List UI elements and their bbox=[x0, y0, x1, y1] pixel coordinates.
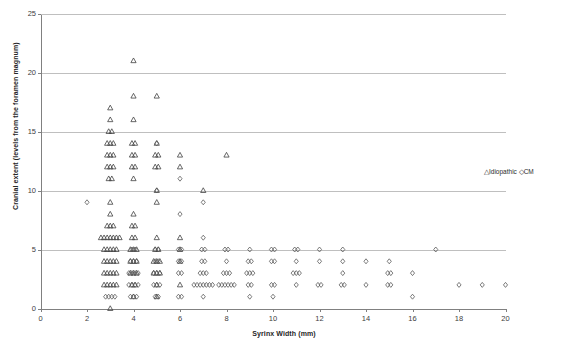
data-point-triangle bbox=[224, 152, 229, 157]
data-point-diamond bbox=[294, 282, 298, 287]
data-point-triangle bbox=[131, 176, 136, 181]
x-tick-label: 6 bbox=[165, 314, 195, 323]
data-point-diamond bbox=[248, 294, 252, 299]
legend-entry-cm: ◇CM bbox=[519, 168, 534, 176]
y-tick-label: 0 bbox=[14, 304, 36, 313]
x-tick-label: 16 bbox=[398, 314, 428, 323]
data-point-diamond bbox=[480, 282, 484, 287]
data-point-triangle bbox=[131, 93, 136, 98]
axis-lines bbox=[41, 14, 506, 310]
data-point-diamond bbox=[364, 282, 368, 287]
series-idiopathic bbox=[98, 58, 229, 311]
data-point-diamond bbox=[364, 259, 368, 264]
series-cm bbox=[85, 141, 508, 299]
data-point-triangle bbox=[154, 93, 159, 98]
data-point-diamond bbox=[248, 247, 252, 252]
data-point-diamond bbox=[294, 259, 298, 264]
data-point-diamond bbox=[271, 294, 275, 299]
data-point-triangle bbox=[131, 58, 136, 63]
x-tick-label: 4 bbox=[119, 314, 149, 323]
data-point-diamond bbox=[317, 247, 321, 252]
data-point-triangle bbox=[154, 235, 159, 240]
data-point-triangle bbox=[154, 200, 159, 205]
data-point-diamond bbox=[410, 294, 414, 299]
y-axis-title: Cranial extent (levels from the foramen … bbox=[12, 10, 19, 210]
data-point-triangle bbox=[108, 211, 113, 216]
data-point-diamond bbox=[387, 259, 391, 264]
data-point-diamond bbox=[201, 200, 205, 205]
data-point-diamond bbox=[178, 176, 182, 181]
plot-canvas bbox=[0, 0, 568, 344]
x-axis-title: Syrinx Width (mm) bbox=[0, 330, 568, 337]
data-point-diamond bbox=[178, 212, 182, 217]
data-points bbox=[85, 58, 508, 311]
data-point-triangle bbox=[177, 282, 182, 287]
data-point-diamond bbox=[503, 282, 507, 287]
gridlines bbox=[41, 15, 506, 251]
data-point-triangle bbox=[108, 117, 113, 122]
scatter-plot-figure: 0510152025 02468101214161820 Cranial ext… bbox=[0, 0, 568, 344]
data-point-diamond bbox=[341, 259, 345, 264]
data-point-diamond bbox=[201, 235, 205, 240]
data-point-triangle bbox=[177, 235, 182, 240]
data-point-diamond bbox=[457, 282, 461, 287]
data-point-diamond bbox=[224, 259, 228, 264]
data-point-diamond bbox=[201, 294, 205, 299]
x-tick-label: 10 bbox=[258, 314, 288, 323]
x-tick-label: 2 bbox=[72, 314, 102, 323]
data-point-diamond bbox=[341, 271, 345, 276]
y-tick-label: 5 bbox=[14, 245, 36, 254]
data-point-diamond bbox=[410, 271, 414, 276]
legend-entry-idiopathic: △Idiopathic bbox=[484, 168, 517, 176]
x-tick-label: 18 bbox=[444, 314, 474, 323]
data-point-triangle bbox=[108, 105, 113, 110]
x-tick-label: 0 bbox=[26, 314, 56, 323]
data-point-diamond bbox=[434, 247, 438, 252]
data-point-triangle bbox=[131, 117, 136, 122]
chart-legend: △Idiopathic ◇CM bbox=[484, 168, 534, 176]
data-point-diamond bbox=[85, 200, 89, 205]
x-tick-label: 14 bbox=[351, 314, 381, 323]
data-point-triangle bbox=[131, 211, 136, 216]
data-point-triangle bbox=[108, 200, 113, 205]
x-tick-label: 8 bbox=[212, 314, 242, 323]
x-tick-label: 20 bbox=[491, 314, 521, 323]
data-point-triangle bbox=[177, 164, 182, 169]
x-tick-label: 12 bbox=[305, 314, 335, 323]
data-point-diamond bbox=[317, 259, 321, 264]
legend-label-cm: CM bbox=[524, 168, 534, 175]
axis-ticks bbox=[38, 15, 507, 312]
data-point-diamond bbox=[341, 247, 345, 252]
legend-label-idiopathic: Idiopathic bbox=[489, 168, 517, 175]
data-point-triangle bbox=[177, 152, 182, 157]
data-point-triangle bbox=[108, 306, 113, 311]
